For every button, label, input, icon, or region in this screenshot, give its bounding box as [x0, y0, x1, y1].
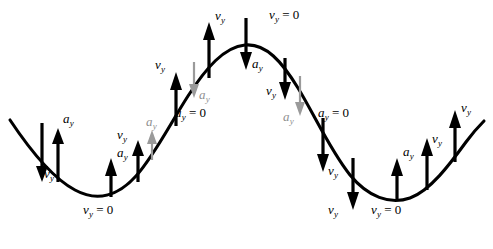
label-vy-fall-2: vy: [328, 164, 338, 180]
label-ay-peak: ay: [252, 57, 263, 73]
label-vy-zero-trough-right: vy = 0: [371, 203, 401, 219]
label-ay-trough-left: ay: [117, 146, 128, 162]
label-ay-fall-faded: ay: [283, 110, 294, 126]
label-vy-fall-1: vy: [266, 84, 276, 100]
vector-arrow-vy-rise-left: [132, 140, 144, 182]
label-vy-rise-left: vy: [117, 128, 127, 144]
label-ay-trough-right: ay: [403, 145, 414, 161]
vector-arrow-ay-trough-right: [391, 158, 403, 199]
label-ay-rise-faded-down: ay: [199, 88, 210, 104]
label-vy-rise-right-2: vy: [461, 101, 471, 117]
label-ay-rise-faded-left: ay: [146, 115, 157, 131]
trajectory-curve: [10, 45, 484, 201]
trajectory-vector-svg: [0, 0, 493, 249]
label-ay-zero-rise: ay = 0: [175, 106, 206, 122]
label-ay-zero-fall: ay = 0: [318, 106, 349, 122]
label-vy-rise-left-2: vy: [155, 58, 165, 74]
label-vy-zero-peak: vy = 0: [269, 8, 299, 24]
label-ay-left-up: ay: [63, 112, 74, 128]
label-vy-left-down: vy: [44, 167, 54, 183]
vector-arrow-vy-near-peak: [203, 22, 215, 78]
vector-arrow-vy-rise-right-2: [449, 110, 461, 162]
physics-diagram: vy ay ay vy = 0 vy ay vy ay ay = 0 vy ay…: [0, 0, 493, 249]
label-vy-near-peak: vy: [215, 9, 225, 25]
label-vy-fall-3: vy: [328, 203, 338, 219]
vector-arrow-ay-rise-faded-left: [147, 130, 157, 160]
label-vy-rise-right-1: vy: [432, 132, 442, 148]
label-vy-zero-trough-left: vy = 0: [83, 203, 113, 219]
